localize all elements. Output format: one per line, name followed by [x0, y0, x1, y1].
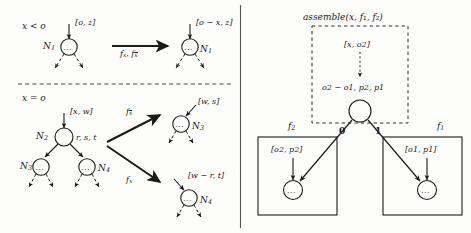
row2-upper-in-edge — [186, 105, 196, 116]
row2-upper-node-name: N3 — [192, 122, 204, 132]
assemble-title: assemble(x, f₁, f₂) — [303, 13, 383, 22]
row1-source-node-dots: ... — [63, 44, 72, 52]
f2-edge-label: [o2, p2] — [271, 146, 302, 154]
row2-upper-node-subscript: 3 — [200, 124, 204, 132]
row2-lower-node-name: N4 — [200, 196, 212, 206]
row1-source-node-letter: N — [43, 41, 51, 51]
row2-child-n3-dots: ... — [35, 164, 44, 172]
figure-vector-layer — [0, 0, 471, 233]
row2-n3-out-high — [46, 174, 53, 187]
row2-source-edge-label: [x, w] — [70, 108, 93, 116]
f1-node-dots: ... — [421, 187, 430, 195]
row2-lower-node-dots: ... — [183, 195, 192, 203]
row2-child-n4-name: N4 — [98, 164, 110, 174]
row1-target-node-name: N1 — [200, 45, 212, 55]
row1-source-edge-label: [o, z] — [75, 19, 95, 27]
row2-branch-upper-label: fx — [126, 108, 132, 117]
row1-target-node-dots: ... — [184, 44, 193, 52]
row2-upper-out-high — [186, 131, 193, 143]
assemble-title-arguments: (x, f₁, f₂) — [345, 12, 382, 22]
row2-child-n4-dots: ... — [81, 164, 90, 172]
row2-lower-node-subscript: 4 — [208, 198, 212, 206]
row1-target-edge-label: [o − x, z] — [196, 19, 233, 27]
row2-child-n4-subscript: 4 — [106, 166, 110, 174]
f2-box-label-subscript: 2 — [291, 124, 295, 132]
row1-target-out-high — [195, 54, 204, 68]
row2-child-n3-subscript: 3 — [28, 164, 32, 172]
row2-source-node-letter: N — [36, 131, 44, 141]
row2-source-edge-to-n4 — [70, 144, 83, 157]
row2-source-edge-to-n3 — [45, 144, 58, 157]
row2-branch-upper-sub-overlined: x — [129, 110, 132, 117]
row2-source-side-label: r, s, t — [76, 134, 96, 142]
row1-arrow-label-f2-sub-overlined: x — [134, 52, 137, 59]
assemble-low-edge-value: 0 — [339, 127, 345, 136]
row1-source-node-subscript: 1 — [51, 44, 55, 52]
row2-lower-node-letter: N — [200, 195, 208, 205]
row2-upper-node-letter: N — [192, 121, 200, 131]
row1-target-node-subscript: 1 — [208, 47, 212, 55]
row1-source-out-low — [55, 54, 64, 68]
row2-lower-in-edge — [174, 179, 184, 190]
row2-n4-out-low — [75, 174, 82, 187]
f2-box-label: f2 — [288, 122, 295, 132]
row2-upper-out-low — [169, 131, 176, 143]
row2-source-node-name: N2 — [36, 132, 48, 142]
row1-source-out-high — [74, 54, 83, 68]
row2-source-node-subscript: 2 — [44, 134, 48, 142]
row2-upper-node-dots: ... — [175, 121, 184, 129]
row2-branch-lower-label: fx — [126, 176, 132, 185]
row2-condition-label: x = o — [22, 94, 46, 103]
row1-target-node-letter: N — [200, 44, 208, 54]
row2-lower-out-high — [194, 205, 201, 217]
row2-child-n3-name: N3 — [20, 162, 32, 172]
row1-condition-label: x < o — [22, 22, 46, 31]
row2-branch-lower-arrow — [107, 146, 160, 182]
row1-source-edge-value: o, z — [78, 18, 92, 27]
assemble-root-node — [349, 100, 371, 122]
assemble-node-attribute-label: o2 − o1, p2, p1 — [322, 84, 384, 92]
assemble-title-function: assemble — [303, 12, 345, 22]
row1-target-out-low — [176, 54, 185, 68]
f2-node-dots: ... — [287, 187, 296, 195]
row2-branch-lower-sub: x — [129, 178, 132, 184]
row2-branch-upper-arrow — [107, 115, 160, 142]
row2-source-node — [55, 128, 73, 146]
f1-box-label: f1 — [437, 122, 444, 132]
row2-lower-out-low — [177, 205, 184, 217]
assemble-input-edge-label: [x, o2] — [344, 41, 370, 49]
row2-upper-edge-label: [w, s] — [198, 98, 219, 106]
assemble-high-edge-value: 1 — [375, 127, 381, 136]
row2-lower-edge-label: [w − r, t] — [188, 172, 224, 180]
row1-arrow-label: fx, fx — [120, 50, 138, 59]
row1-source-node-name: N1 — [43, 42, 55, 52]
row2-child-n3-letter: N — [20, 161, 28, 171]
f1-box-label-subscript: 1 — [440, 124, 444, 132]
row2-n4-out-high — [92, 174, 99, 187]
row2-n3-out-low — [29, 174, 36, 187]
figure-canvas: x < o [o, z] N1 ... fx, fx [o − x, z] N1… — [0, 0, 471, 233]
row2-child-n4-letter: N — [98, 163, 106, 173]
f1-edge-label: [o1, p1] — [405, 146, 436, 154]
